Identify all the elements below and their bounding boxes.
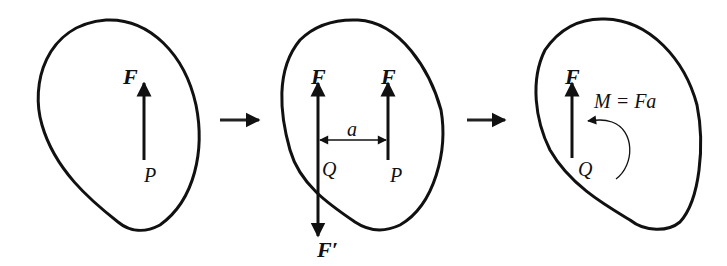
force-label-f-p: F <box>380 64 396 89</box>
rigid-body-outline <box>38 20 199 230</box>
panel-equivalent-force-couple: F Q M = Fa <box>536 19 701 229</box>
force-label-f: F <box>122 64 138 89</box>
distance-label-a: a <box>347 118 357 140</box>
force-label-f-q: F <box>310 64 326 89</box>
panel-original: F P <box>38 20 199 230</box>
moment-arc-icon <box>588 120 630 179</box>
force-label-f: F <box>564 64 580 89</box>
point-label-p: P <box>389 164 402 186</box>
force-label-f-prime: F′ <box>316 237 338 262</box>
point-label-q: Q <box>578 158 593 180</box>
force-translation-diagram: F P F F a Q P F′ F Q M = Fa <box>0 0 727 266</box>
moment-label: M = Fa <box>593 90 656 112</box>
panel-added-equilibrium-pair: F F a Q P F′ <box>282 20 443 262</box>
point-label-p: P <box>143 164 156 186</box>
rigid-body-outline <box>282 20 443 230</box>
rigid-body-outline <box>536 19 701 229</box>
point-label-q: Q <box>322 158 337 180</box>
